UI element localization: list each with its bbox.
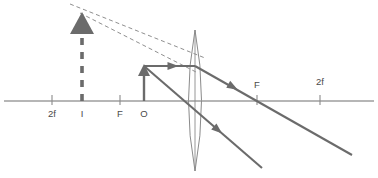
- label-left-2f: 2f: [48, 108, 56, 119]
- label-image-point-i: I: [81, 108, 84, 119]
- label-object-point-o: O: [140, 108, 147, 119]
- ray-center-ray: [144, 66, 262, 168]
- image-arrow-head: [70, 12, 94, 34]
- image-arrow: [70, 12, 94, 101]
- ray-diagram-canvas: 2f I F O F 2f: [0, 0, 378, 178]
- virtual-ray-group: [70, 4, 205, 72]
- ray-virtual-ray-lower: [80, 13, 196, 72]
- label-right-2f: 2f: [316, 76, 324, 87]
- label-left-focal-point-f: F: [117, 108, 123, 119]
- ray-direction-arrow-parallel-ray-incident: [168, 62, 179, 70]
- ray-direction-arrow-parallel-ray-refracted: [226, 81, 238, 90]
- ray-parallel-ray-refracted: [195, 66, 352, 155]
- optics-ray-diagram: 2f I F O F 2f: [0, 0, 378, 178]
- label-right-focal-point-f: F: [254, 79, 260, 90]
